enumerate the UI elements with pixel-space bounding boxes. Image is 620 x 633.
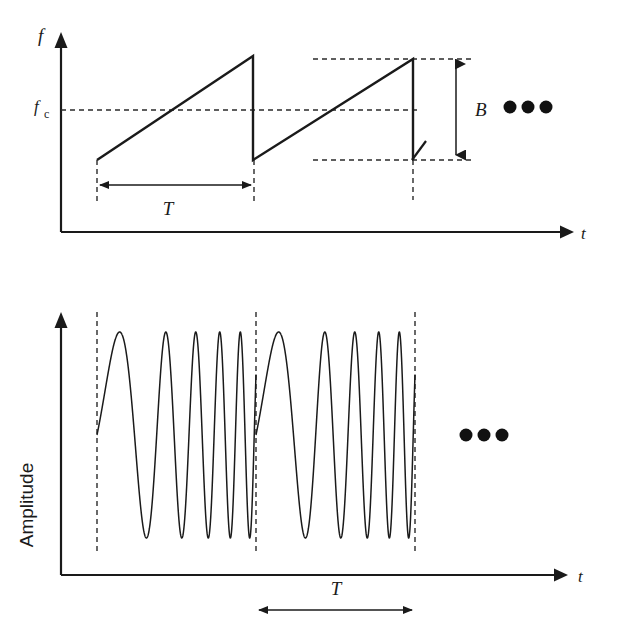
fc-tick-label: f c [34,97,49,121]
bandwidth-label-B: B [475,99,487,120]
chirp-waveform-trace [97,332,415,538]
x-axis-arrowhead [560,226,574,239]
figure-root: f t f c T B [0,0,620,633]
transmitted-waveform-plot: Amplitude t T [0,280,620,633]
ellipsis-dot-3 [540,101,553,114]
period-label-T-bottom: T [331,578,343,599]
x-axis-arrowhead-bottom [554,569,568,582]
period-label-T: T [163,198,175,219]
y-axis-arrowhead [55,32,68,48]
bandwidth-dimension: B [456,64,487,155]
y-axis-label-amplitude: Amplitude [16,463,37,548]
continuation-dots-frequency [504,101,553,114]
ellipsis-dot-2 [522,101,535,114]
y-axis-arrowhead-bottom [55,312,68,328]
ellipsis-dot-2-bottom [478,429,491,442]
ellipsis-dot-1-bottom [460,429,473,442]
continuation-dots-amplitude [460,429,509,442]
period-dimension-amplitude: T [259,578,412,610]
fc-subscript-letter: c [44,107,49,121]
axes-group-amplitude [55,312,569,582]
instantaneous-frequency-plot: f t f c T B [0,0,620,280]
ellipsis-dot-1 [504,101,517,114]
sawtooth-sweep-trace [97,56,413,160]
ellipsis-dot-3-bottom [496,429,509,442]
period-dimension-frequency: T [100,185,251,219]
fc-base-letter: f [34,97,41,116]
x-axis-label-time: t [581,224,587,243]
y-axis-label-frequency: f [38,25,46,46]
x-axis-label-time-bottom: t [578,567,584,586]
